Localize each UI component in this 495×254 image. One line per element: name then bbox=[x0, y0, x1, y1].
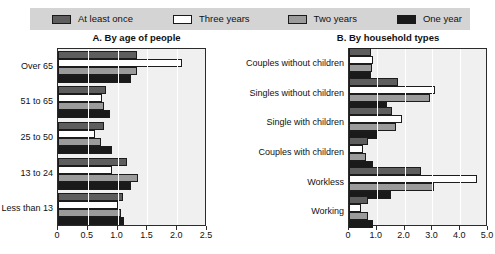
bar bbox=[58, 130, 95, 138]
bar bbox=[349, 115, 402, 123]
bar bbox=[349, 153, 366, 161]
bar bbox=[58, 122, 104, 130]
bar bbox=[58, 193, 123, 201]
x-axis-tick-label: 2.5 bbox=[200, 231, 213, 240]
gridline bbox=[118, 49, 119, 225]
category-label: Single with children bbox=[266, 118, 344, 127]
bar bbox=[58, 94, 102, 102]
gridline bbox=[460, 49, 461, 225]
x-axis-tick-label: 1.5 bbox=[140, 231, 153, 240]
bar bbox=[58, 75, 131, 83]
panel-a-plot-area bbox=[57, 48, 206, 226]
bar bbox=[349, 94, 430, 102]
bar bbox=[58, 182, 131, 190]
x-axis-tick-label: 5.0 bbox=[481, 231, 494, 240]
x-axis-tick-label: 4.0 bbox=[453, 231, 466, 240]
bar bbox=[349, 183, 434, 191]
bar bbox=[58, 209, 121, 217]
gridline bbox=[405, 49, 406, 225]
bar bbox=[58, 166, 112, 174]
chart-figure: At least once Three years Two years One … bbox=[0, 0, 495, 254]
bar bbox=[58, 110, 110, 118]
category-label: Working bbox=[311, 207, 344, 216]
category-label: Couples with children bbox=[258, 147, 344, 156]
category-label: 13 to 24 bbox=[20, 168, 53, 177]
category-label: Couples without children bbox=[246, 58, 344, 67]
panel-b-bars bbox=[349, 49, 486, 225]
panel-a-title: A. By age of people bbox=[0, 32, 247, 43]
panel-b-category-labels: Couples without childrenSingles without … bbox=[247, 48, 344, 226]
bar bbox=[58, 138, 101, 146]
bar bbox=[58, 59, 182, 67]
gridline bbox=[177, 49, 178, 225]
legend-label-at-least-once: At least once bbox=[78, 14, 133, 24]
x-axis-tick-label: 0 bbox=[345, 231, 350, 240]
bar bbox=[349, 48, 371, 56]
legend-item-two-years: Two years bbox=[288, 8, 357, 30]
category-label: Workless bbox=[307, 177, 344, 186]
x-axis-tick-label: 0 bbox=[54, 231, 59, 240]
x-axis-tick-label: 2.0 bbox=[397, 231, 410, 240]
category-label: 51 to 65 bbox=[20, 97, 53, 106]
bar bbox=[349, 137, 368, 145]
gridline bbox=[377, 49, 378, 225]
bar bbox=[349, 167, 421, 175]
bar bbox=[349, 107, 392, 115]
legend-swatch-at-least-once bbox=[52, 15, 71, 24]
bar bbox=[349, 123, 396, 131]
legend-label-one-year: One year bbox=[423, 14, 462, 24]
category-label: Singles without children bbox=[249, 88, 344, 97]
x-axis-tick-label: 2.0 bbox=[170, 231, 183, 240]
gridline bbox=[432, 49, 433, 225]
bar bbox=[58, 51, 137, 59]
panel-a-category-labels: Over 6551 to 6525 to 5013 to 24Less than… bbox=[0, 48, 53, 226]
x-axis-tick-label: 1.0 bbox=[370, 231, 383, 240]
legend-swatch-three-years bbox=[173, 15, 192, 24]
bar bbox=[349, 56, 373, 64]
bar bbox=[58, 146, 112, 154]
panel-a-bars bbox=[58, 49, 205, 225]
category-label: Over 65 bbox=[21, 61, 53, 70]
bar bbox=[58, 174, 138, 182]
x-axis-tick-label: 0.5 bbox=[81, 231, 94, 240]
category-label: 25 to 50 bbox=[20, 133, 53, 142]
legend-item-one-year: One year bbox=[397, 8, 462, 30]
x-axis-tick-label: 3.0 bbox=[425, 231, 438, 240]
bar bbox=[58, 102, 104, 110]
bar bbox=[349, 86, 435, 94]
legend-label-two-years: Two years bbox=[314, 14, 357, 24]
bar bbox=[349, 64, 372, 72]
category-label: Less than 13 bbox=[1, 204, 53, 213]
bar bbox=[349, 175, 477, 183]
bar bbox=[349, 145, 363, 153]
legend-item-at-least-once: At least once bbox=[52, 8, 133, 30]
panel-b-title: B. By household types bbox=[247, 32, 495, 43]
gridline bbox=[147, 49, 148, 225]
x-axis-tick-label: 1.0 bbox=[110, 231, 123, 240]
bar bbox=[58, 67, 137, 75]
legend-swatch-two-years bbox=[288, 15, 307, 24]
legend-item-three-years: Three years bbox=[173, 8, 250, 30]
bar bbox=[349, 196, 368, 204]
bar bbox=[58, 217, 124, 225]
bar bbox=[349, 204, 361, 212]
legend-label-three-years: Three years bbox=[199, 14, 250, 24]
legend-swatch-one-year bbox=[397, 15, 416, 24]
bar bbox=[58, 86, 106, 94]
bar bbox=[349, 220, 373, 228]
panel-b-plot-area bbox=[348, 48, 487, 226]
gridline bbox=[88, 49, 89, 225]
chart-legend: At least once Three years Two years One … bbox=[30, 8, 470, 30]
bar bbox=[349, 212, 368, 220]
bar bbox=[349, 78, 398, 86]
